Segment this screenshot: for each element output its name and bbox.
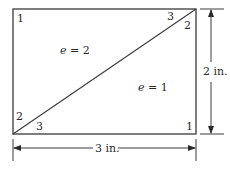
element-label-e2: e = 2	[60, 44, 90, 57]
node-label-bottom-left-elem2: 2	[16, 110, 23, 123]
element-e1-value: = 1	[145, 81, 168, 94]
node-label-bottom-left-elem1: 3	[36, 120, 43, 133]
element-e2-value: = 2	[67, 44, 90, 57]
node-label-top-left: 1	[17, 12, 24, 25]
diagonal-line	[13, 9, 196, 134]
width-dimension-label: 3 in.	[95, 142, 120, 155]
node-label-top-right-elem2: 3	[167, 10, 174, 23]
element-mesh-diagram: 1 3 2 2 3 1 e = 2 e = 1 2 in. 3 in.	[0, 0, 230, 169]
node-label-bottom-right: 1	[186, 120, 193, 133]
element-label-e1: e = 1	[138, 81, 168, 94]
height-dimension-label: 2 in.	[203, 65, 228, 78]
node-label-top-right-elem1: 2	[184, 19, 191, 32]
